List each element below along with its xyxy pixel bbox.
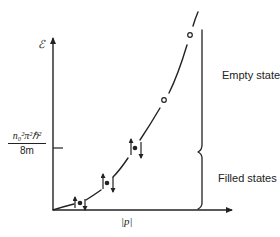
filled-level-1 (75, 197, 85, 210)
y-axis-label: ℰ (38, 38, 45, 51)
filled-states-label: Filled states (218, 172, 277, 184)
empty-level-1 (162, 98, 167, 103)
filled-level-2 (103, 174, 113, 192)
fermi-energy-label: n₀²π²ℏ² 8m (8, 130, 46, 157)
diagram-canvas (0, 0, 280, 237)
electron-dot (105, 181, 110, 186)
dispersion-curve (53, 12, 198, 210)
empty-states-label: Empty states (222, 69, 280, 81)
electron-dot (133, 146, 138, 151)
fermi-energy-numerator: n₀²π²ℏ² (8, 130, 46, 144)
states-bracket (198, 30, 202, 209)
x-axis-label: |p| (121, 215, 133, 227)
fermi-energy-denominator: 8m (8, 144, 46, 157)
filled-level-3 (131, 139, 141, 158)
empty-level-2 (188, 33, 193, 38)
electron-dot (78, 201, 83, 206)
